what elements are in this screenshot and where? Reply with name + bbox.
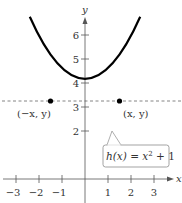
x-tick-label: 3: [151, 187, 157, 198]
y-tick-label: 3: [73, 102, 79, 113]
callout-label: h(x) = x2 + 1: [106, 150, 175, 162]
x-axis-label: x: [176, 173, 182, 184]
point-right: [117, 98, 122, 103]
x-tick-labels: −3 −2 −1 1 2 3: [6, 187, 158, 198]
y-tick-label: 2: [73, 126, 79, 137]
x-tick-label: 1: [105, 187, 111, 198]
y-tick-label: 5: [73, 54, 79, 65]
y-tick-label: 4: [73, 78, 79, 89]
y-tick-labels: 6 5 4 3 2: [73, 30, 79, 137]
x-tick-label: −1: [52, 187, 67, 198]
point-left-label: (−x, y): [17, 108, 51, 119]
x-tick-label: 2: [128, 187, 134, 198]
parabola-graph: x y −3 −2 −1 1 2 3 6 5 4 3 2 (−x, y): [0, 0, 182, 203]
y-tick-label: 6: [73, 30, 79, 41]
x-tick-label: −3: [6, 187, 21, 198]
y-axis-arrow-icon: [83, 17, 88, 24]
point-left: [48, 98, 53, 103]
point-right-label: (x, y): [123, 108, 149, 119]
y-axis-label: y: [81, 4, 88, 15]
x-axis-arrow-icon: [167, 177, 174, 182]
function-callout: h(x) = x2 + 1: [103, 131, 175, 167]
x-tick-label: −2: [29, 187, 44, 198]
